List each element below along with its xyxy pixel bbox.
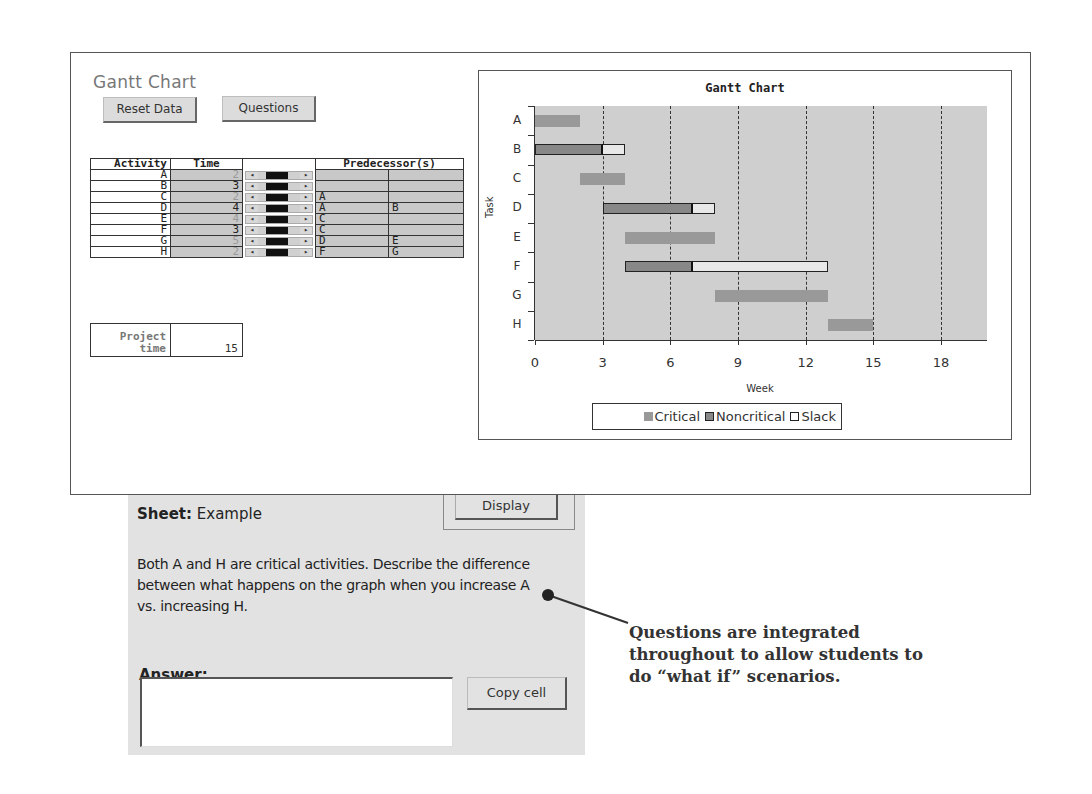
legend-critical-label: Critical [655,409,700,424]
time-spinner[interactable]: ◂ ▸ [245,226,313,235]
critical-bar [580,173,625,185]
spinner-track[interactable] [258,216,300,223]
decrement-arrow-icon[interactable]: ◂ [246,171,258,179]
y-axis-title: Task [484,196,495,218]
x-tick-label: 12 [786,355,826,370]
spinner-track[interactable] [258,238,300,245]
table-row: A 2 ◂ ▸ [91,170,464,181]
spinner-track[interactable] [258,249,300,256]
time-spinner[interactable]: ◂ ▸ [245,171,313,180]
critical-swatch-icon [644,412,653,421]
predecessor-1-cell[interactable] [316,170,389,181]
gridline [806,106,807,340]
spinner-thumb[interactable] [266,249,288,256]
y-tick-label: H [510,317,524,331]
time-cell[interactable]: 2 [171,247,243,258]
increment-arrow-icon[interactable]: ▸ [300,248,312,256]
noncritical-swatch-icon [705,412,714,421]
predecessor-1-cell[interactable]: D [316,236,389,247]
predecessor-2-cell[interactable] [389,225,464,236]
page-title: Gantt Chart [93,72,196,92]
table-row: H 2 ◂ ▸ F G [91,247,464,258]
decrement-arrow-icon[interactable]: ◂ [246,215,258,223]
table-row: E 4 ◂ ▸ C [91,214,464,225]
gridline [941,106,942,340]
decrement-arrow-icon[interactable]: ◂ [246,204,258,212]
activity-table: Activity Time Predecessor(s) A 2 ◂ ▸ B 3… [90,158,464,258]
time-spinner[interactable]: ◂ ▸ [245,182,313,191]
slack-swatch-icon [790,412,799,421]
decrement-arrow-icon[interactable]: ◂ [246,193,258,201]
increment-arrow-icon[interactable]: ▸ [300,182,312,190]
predecessor-2-cell[interactable]: G [389,247,464,258]
chart-legend: Critical Noncritical Slack [592,403,842,430]
increment-arrow-icon[interactable]: ▸ [300,215,312,223]
table-row: C 2 ◂ ▸ A [91,192,464,203]
predecessor-1-cell[interactable] [316,181,389,192]
increment-arrow-icon[interactable]: ▸ [300,171,312,179]
time-spinner[interactable]: ◂ ▸ [245,215,313,224]
y-tick-label: G [510,288,524,302]
critical-bar [625,232,715,244]
gridline [738,106,739,340]
spinner-track[interactable] [258,194,300,201]
predecessor-1-cell[interactable]: A [316,192,389,203]
spinner-track[interactable] [258,205,300,212]
x-tick-label: 6 [650,355,690,370]
predecessor-1-cell[interactable]: C [316,214,389,225]
activity-cell: C [91,192,171,203]
critical-bar [535,115,580,127]
predecessor-2-cell[interactable] [389,181,464,192]
spinner-track[interactable] [258,227,300,234]
legend-slack: Slack [790,409,836,424]
activity-cell: F [91,225,171,236]
questions-button[interactable]: Questions [222,96,316,122]
time-spinner-cell: ◂ ▸ [243,236,316,247]
predecessor-2-cell[interactable]: B [389,203,464,214]
spinner-thumb[interactable] [266,183,288,190]
spinner-thumb[interactable] [266,227,288,234]
decrement-arrow-icon[interactable]: ◂ [246,182,258,190]
display-button[interactable]: Display [455,495,558,520]
spinner-track[interactable] [258,172,300,179]
time-spinner[interactable]: ◂ ▸ [245,248,313,257]
predecessor-2-cell[interactable]: E [389,236,464,247]
spinner-thumb[interactable] [266,238,288,245]
project-time-value: 15 [171,324,243,357]
y-tick-label: C [510,171,524,185]
increment-arrow-icon[interactable]: ▸ [300,193,312,201]
predecessor-2-cell[interactable] [389,170,464,181]
spinner-thumb[interactable] [266,172,288,179]
answer-input[interactable] [140,677,453,747]
x-tick-label: 18 [921,355,961,370]
predecessor-1-cell[interactable]: F [316,247,389,258]
spinner-thumb[interactable] [266,216,288,223]
slack-bar [603,144,626,155]
activity-cell: E [91,214,171,225]
spinner-thumb[interactable] [266,205,288,212]
reset-data-button[interactable]: Reset Data [103,97,197,123]
noncritical-bar [625,261,693,272]
time-spinner[interactable]: ◂ ▸ [245,193,313,202]
copy-cell-button[interactable]: Copy cell [467,677,567,710]
predecessors-header: Predecessor(s) [316,159,464,170]
predecessor-1-cell[interactable]: C [316,225,389,236]
y-tick-label: D [510,200,524,214]
predecessor-2-cell[interactable] [389,214,464,225]
predecessor-2-cell[interactable] [389,192,464,203]
increment-arrow-icon[interactable]: ▸ [300,204,312,212]
gridline [670,106,671,340]
spinner-thumb[interactable] [266,194,288,201]
increment-arrow-icon[interactable]: ▸ [300,237,312,245]
time-spinner[interactable]: ◂ ▸ [245,237,313,246]
spinner-track[interactable] [258,183,300,190]
sheet-name: Example [197,505,262,523]
critical-bar [715,290,828,302]
decrement-arrow-icon[interactable]: ◂ [246,226,258,234]
legend-noncritical: Noncritical [705,409,785,424]
increment-arrow-icon[interactable]: ▸ [300,226,312,234]
decrement-arrow-icon[interactable]: ◂ [246,237,258,245]
decrement-arrow-icon[interactable]: ◂ [246,248,258,256]
time-spinner[interactable]: ◂ ▸ [245,204,313,213]
predecessor-1-cell[interactable]: A [316,203,389,214]
